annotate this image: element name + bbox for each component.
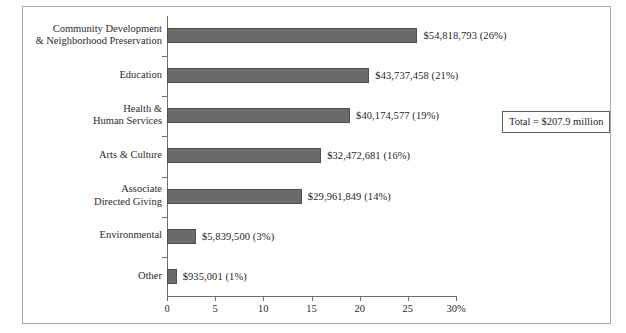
category-label: Community Development & Neighborhood Pre… (22, 23, 162, 48)
x-axis-tick (456, 296, 457, 301)
bar-track: $43,737,458 (21%) (167, 68, 626, 83)
bar[interactable] (167, 189, 302, 204)
category-label: Associate Directed Giving (22, 183, 162, 208)
x-axis-tick (312, 296, 313, 301)
x-axis-tick (408, 296, 409, 301)
category-label: Environmental (22, 229, 162, 242)
bar-row: $5,839,500 (3%) (167, 217, 626, 255)
bar-value-label: $5,839,500 (3%) (202, 228, 274, 245)
x-axis-tick-label: 20 (354, 302, 365, 316)
bar-row: $935,001 (1%) (167, 257, 626, 295)
bar[interactable] (167, 148, 321, 163)
category-axis-labels: Community Development & Neighborhood Pre… (18, 16, 162, 297)
x-axis-tick-label: 25 (403, 302, 414, 316)
bar-row: $54,818,793 (26%) (167, 16, 626, 54)
category-label: Other (22, 270, 162, 283)
bar[interactable] (167, 229, 196, 244)
x-axis-tick-label: 5 (213, 302, 218, 316)
bar-value-label: $43,737,458 (21%) (375, 67, 458, 84)
chart-figure: Community Development & Neighborhood Pre… (0, 0, 626, 333)
plot-area: $54,818,793 (26%)$43,737,458 (21%)$40,17… (167, 16, 456, 295)
bar[interactable] (167, 108, 350, 123)
bar[interactable] (167, 68, 369, 83)
bar[interactable] (167, 269, 177, 284)
x-axis-ticks: 051015202530% (167, 296, 459, 322)
bar-track: $935,001 (1%) (167, 269, 626, 284)
bar-value-label: $54,818,793 (26%) (423, 27, 506, 44)
x-axis-tick-label: 15 (306, 302, 317, 316)
bar-row: $43,737,458 (21%) (167, 56, 626, 94)
bar-track: $54,818,793 (26%) (167, 28, 626, 43)
x-axis-tick (167, 296, 168, 301)
bar-value-label: $32,472,681 (16%) (327, 147, 410, 164)
bar-row: $29,961,849 (14%) (167, 177, 626, 215)
bar-track: $5,839,500 (3%) (167, 229, 626, 244)
x-axis-tick (263, 296, 264, 301)
bar-value-label: $935,001 (1%) (183, 268, 247, 285)
bar-value-label: $29,961,849 (14%) (308, 188, 391, 205)
category-label: Arts & Culture (22, 149, 162, 162)
category-label: Health & Human Services (22, 103, 162, 128)
bar-value-label: $40,174,577 (19%) (356, 107, 439, 124)
total-annotation-box: Total = $207.9 million (502, 111, 610, 133)
bar-track: $32,472,681 (16%) (167, 148, 626, 163)
bar-track: $29,961,849 (14%) (167, 189, 626, 204)
bar[interactable] (167, 28, 417, 43)
x-axis-tick (360, 296, 361, 301)
x-axis-tick-label: 0 (164, 302, 169, 316)
bar-row: $32,472,681 (16%) (167, 136, 626, 174)
x-axis-tick-label: 10 (258, 302, 269, 316)
x-axis-tick (215, 296, 216, 301)
x-axis-tick-label: 30% (446, 302, 465, 316)
category-label: Education (22, 69, 162, 82)
